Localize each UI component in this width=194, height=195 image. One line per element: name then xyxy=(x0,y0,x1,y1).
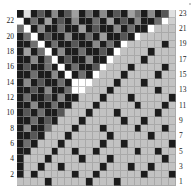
heatmap-cell[interactable] xyxy=(135,171,142,179)
heatmap-cell[interactable] xyxy=(31,79,38,87)
heatmap-cell[interactable] xyxy=(121,109,128,117)
heatmap-cell[interactable] xyxy=(93,117,100,125)
heatmap-cell[interactable] xyxy=(148,148,155,156)
heatmap-cell[interactable] xyxy=(148,171,155,179)
heatmap-cell[interactable] xyxy=(45,48,52,56)
heatmap-cell[interactable] xyxy=(169,10,176,18)
heatmap-cell[interactable] xyxy=(58,117,65,125)
heatmap-cell[interactable] xyxy=(114,48,121,56)
heatmap-cell[interactable] xyxy=(86,25,93,33)
heatmap-cell[interactable] xyxy=(72,71,79,79)
heatmap-cell[interactable] xyxy=(52,71,59,79)
heatmap-cell[interactable] xyxy=(24,140,31,148)
heatmap-cell[interactable] xyxy=(141,171,148,179)
heatmap-cell[interactable] xyxy=(100,132,107,140)
heatmap-cell[interactable] xyxy=(45,178,52,186)
heatmap-cell[interactable] xyxy=(24,94,31,102)
heatmap-cell[interactable] xyxy=(148,117,155,125)
heatmap-cell[interactable] xyxy=(86,71,93,79)
heatmap-cell[interactable] xyxy=(17,79,24,87)
heatmap-cell[interactable] xyxy=(155,140,162,148)
heatmap-cell[interactable] xyxy=(65,10,72,18)
heatmap-cell[interactable] xyxy=(58,64,65,72)
heatmap-cell[interactable] xyxy=(135,87,142,95)
heatmap-cell[interactable] xyxy=(58,10,65,18)
heatmap-cell[interactable] xyxy=(121,117,128,125)
heatmap-cell[interactable] xyxy=(65,163,72,171)
heatmap-cell[interactable] xyxy=(31,71,38,79)
heatmap-cell[interactable] xyxy=(79,94,86,102)
heatmap-cell[interactable] xyxy=(155,71,162,79)
heatmap-cell[interactable] xyxy=(114,18,121,26)
heatmap-cell[interactable] xyxy=(148,102,155,110)
heatmap-cell[interactable] xyxy=(24,125,31,133)
heatmap-cell[interactable] xyxy=(72,94,79,102)
heatmap-cell[interactable] xyxy=(45,117,52,125)
heatmap-cell[interactable] xyxy=(52,140,59,148)
heatmap-cell[interactable] xyxy=(31,148,38,156)
heatmap-cell[interactable] xyxy=(155,178,162,186)
heatmap-cell[interactable] xyxy=(38,25,45,33)
heatmap-cell[interactable] xyxy=(155,33,162,41)
heatmap-cell[interactable] xyxy=(24,163,31,171)
heatmap-cell[interactable] xyxy=(45,10,52,18)
heatmap-cell[interactable] xyxy=(45,102,52,110)
heatmap-cell[interactable] xyxy=(107,79,114,87)
heatmap-cell[interactable] xyxy=(58,125,65,133)
heatmap-cell[interactable] xyxy=(121,148,128,156)
heatmap-cell[interactable] xyxy=(162,155,169,163)
heatmap-cell[interactable] xyxy=(169,41,176,49)
heatmap-cell[interactable] xyxy=(45,79,52,87)
heatmap-cell[interactable] xyxy=(31,178,38,186)
heatmap-cell[interactable] xyxy=(169,18,176,26)
heatmap-cell[interactable] xyxy=(128,87,135,95)
heatmap-cell[interactable] xyxy=(100,25,107,33)
heatmap-cell[interactable] xyxy=(52,94,59,102)
heatmap-cell[interactable] xyxy=(100,79,107,87)
heatmap-cell[interactable] xyxy=(24,56,31,64)
heatmap-cell[interactable] xyxy=(135,109,142,117)
heatmap-cell[interactable] xyxy=(107,33,114,41)
heatmap-cell[interactable] xyxy=(65,48,72,56)
heatmap-cell[interactable] xyxy=(155,148,162,156)
heatmap-cell[interactable] xyxy=(31,132,38,140)
heatmap-cell[interactable] xyxy=(93,33,100,41)
heatmap-cell[interactable] xyxy=(128,148,135,156)
heatmap-cell[interactable] xyxy=(38,87,45,95)
heatmap-cell[interactable] xyxy=(135,79,142,87)
heatmap-cell[interactable] xyxy=(141,140,148,148)
heatmap-cell[interactable] xyxy=(141,79,148,87)
heatmap-cell[interactable] xyxy=(169,132,176,140)
heatmap-cell[interactable] xyxy=(93,79,100,87)
heatmap-cell[interactable] xyxy=(58,178,65,186)
heatmap-cell[interactable] xyxy=(24,102,31,110)
heatmap-cell[interactable] xyxy=(79,18,86,26)
heatmap-cell[interactable] xyxy=(148,79,155,87)
heatmap-cell[interactable] xyxy=(141,178,148,186)
heatmap-cell[interactable] xyxy=(114,87,121,95)
heatmap-cell[interactable] xyxy=(114,41,121,49)
heatmap-cell[interactable] xyxy=(121,18,128,26)
heatmap-cell[interactable] xyxy=(93,87,100,95)
heatmap-cell[interactable] xyxy=(58,79,65,87)
heatmap-cell[interactable] xyxy=(114,125,121,133)
heatmap-cell[interactable] xyxy=(107,178,114,186)
heatmap-cell[interactable] xyxy=(141,94,148,102)
heatmap-cell[interactable] xyxy=(100,125,107,133)
heatmap-cell[interactable] xyxy=(155,94,162,102)
heatmap-cell[interactable] xyxy=(162,178,169,186)
heatmap-cell[interactable] xyxy=(72,10,79,18)
heatmap-cell[interactable] xyxy=(65,33,72,41)
heatmap-cell[interactable] xyxy=(72,64,79,72)
heatmap-cell[interactable] xyxy=(79,178,86,186)
heatmap-cell[interactable] xyxy=(162,48,169,56)
heatmap-cell[interactable] xyxy=(31,25,38,33)
heatmap-cell[interactable] xyxy=(17,140,24,148)
heatmap-cell[interactable] xyxy=(72,56,79,64)
heatmap-cell[interactable] xyxy=(169,94,176,102)
heatmap-cell[interactable] xyxy=(31,102,38,110)
heatmap-cell[interactable] xyxy=(169,148,176,156)
heatmap-cell[interactable] xyxy=(86,10,93,18)
heatmap-cell[interactable] xyxy=(65,56,72,64)
heatmap-cell[interactable] xyxy=(107,41,114,49)
